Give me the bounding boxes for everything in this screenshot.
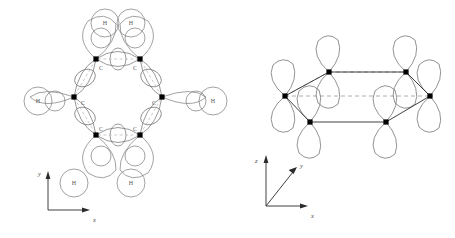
carbon-atom — [137, 56, 142, 61]
carbon-atom — [383, 119, 388, 124]
carbon-atom — [427, 93, 432, 98]
y-axis-label: y — [299, 162, 303, 169]
carbon-atom — [71, 94, 76, 99]
carbon-atom — [137, 132, 142, 137]
carbon-label: C — [81, 100, 85, 106]
hydrogen-label: H — [72, 180, 77, 186]
carbon-label: C — [133, 65, 137, 71]
carbon-atom — [93, 56, 98, 61]
hydrogen-label: H — [36, 98, 41, 104]
hydrogen-label: H — [211, 98, 216, 104]
carbon-atom — [93, 132, 98, 137]
hydrogen-label: H — [103, 20, 108, 26]
carbon-label: C — [99, 65, 103, 71]
carbon-label: C — [99, 126, 103, 132]
x-axis-label: x — [310, 212, 314, 219]
hydrogen-label: H — [129, 20, 134, 26]
carbon-atom — [307, 119, 312, 124]
benzene-orbital-figure: C C C C C C H H H H H H y x — [0, 0, 455, 238]
figure-background — [0, 0, 455, 238]
y-axis-label: y — [37, 170, 41, 177]
carbon-atom — [326, 69, 331, 74]
hydrogen-label: H — [129, 180, 134, 186]
z-axis-label: z — [254, 157, 258, 164]
x-axis-label: x — [92, 216, 96, 223]
carbon-atom — [403, 69, 408, 74]
carbon-label: C — [133, 126, 137, 132]
carbon-atom — [159, 94, 164, 99]
carbon-atom — [282, 93, 287, 98]
carbon-label: C — [152, 100, 156, 106]
